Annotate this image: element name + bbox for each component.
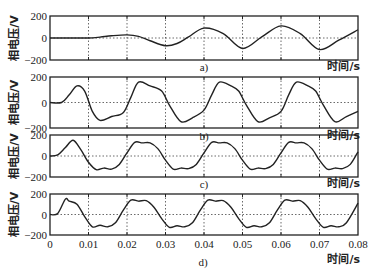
x-tick-label: 0 [47,238,53,250]
y-tick-label: 0 [42,32,48,44]
x-tick-label: 0.08 [348,238,368,250]
panel-label: d) [198,256,208,269]
y-tick-label: 200 [31,10,48,22]
panel-label: c) [200,178,209,191]
x-axis-label: 时间/s [327,59,360,73]
y-tick-label: 200 [31,188,48,200]
panel-c: 2000−200相电压/Vc)时间/s [7,129,360,191]
y-tick-label: 0 [42,150,48,162]
x-tick-label: 0.03 [156,238,176,250]
y-axis-label: 相电压/V [7,79,21,125]
y-tick-label: 0 [42,209,48,221]
y-tick-label: 0 [42,97,48,109]
panel-d: 2000−200相电压/V00.010.020.030.040.050.060.… [7,188,368,269]
y-axis-label: 相电压/V [7,15,21,61]
y-tick-label: −200 [24,54,47,66]
chart-figure: 2000−200相电压/Va)时间/s2000−200相电压/Vb)时间/s20… [0,0,376,273]
panel-a: 2000−200相电压/Va)时间/s [7,10,360,74]
x-axis-label: 时间/s [327,252,360,266]
x-tick-label: 0.04 [194,238,214,250]
x-tick-label: 0.05 [233,238,253,250]
y-tick-label: −200 [24,171,47,183]
y-axis-label: 相电压/V [7,133,21,179]
y-tick-label: 200 [31,129,48,141]
x-axis-label: 时间/s [327,176,360,190]
x-tick-label: 0.01 [79,238,98,250]
x-tick-label: 0.07 [310,238,330,250]
panel-label: a) [200,61,209,74]
y-tick-label: 200 [31,71,48,83]
x-tick-label: 0.02 [117,238,136,250]
y-tick-label: −200 [24,229,47,241]
panel-b: 2000−200相电压/Vb)时间/s [7,71,360,143]
y-axis-label: 相电压/V [7,191,21,237]
series-line-phase-voltage [50,140,358,170]
x-tick-label: 0.06 [271,238,291,250]
